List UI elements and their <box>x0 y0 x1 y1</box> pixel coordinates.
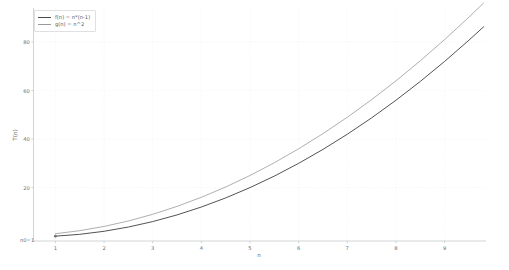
plot-canvas <box>0 0 509 270</box>
x-tick-label: 1 <box>54 245 57 251</box>
y-tick-label: 20 <box>14 185 30 191</box>
y-axis-label: T(n) <box>12 129 18 140</box>
x-axis-label: n <box>257 252 261 258</box>
y-tick-label: 60 <box>14 88 30 94</box>
y-tick-label: 80 <box>14 39 30 45</box>
x-tick-label: 6 <box>297 245 300 251</box>
x-tick-label: 8 <box>394 245 397 251</box>
axis-spines <box>34 8 487 241</box>
x-tick-label: 5 <box>248 245 251 251</box>
x-tick-label: 3 <box>151 245 154 251</box>
x-tick-label: 2 <box>102 245 105 251</box>
x-tick-label: 4 <box>200 245 203 251</box>
chart-figure: 20406080 123456789 T(n) n n0=1 f(n) = n*… <box>0 0 509 270</box>
x-tick-label: 9 <box>443 245 446 251</box>
grid-lines <box>34 8 487 241</box>
legend-swatch-g <box>38 24 51 25</box>
chart-legend: f(n) = n*(n-1) g(n) = n^2 <box>34 10 96 32</box>
n0-annotation-label: n0=1 <box>20 237 34 243</box>
data-series-group <box>55 3 483 236</box>
legend-item-g: g(n) = n^2 <box>38 21 90 28</box>
legend-label-g: g(n) = n^2 <box>55 21 84 28</box>
legend-swatch-f <box>38 17 51 18</box>
axis-tick-marks <box>31 42 444 243</box>
legend-label-f: f(n) = n*(n-1) <box>55 14 90 21</box>
x-tick-label: 7 <box>346 245 349 251</box>
legend-item-f: f(n) = n*(n-1) <box>38 14 90 21</box>
n0-marker-point <box>54 235 57 238</box>
